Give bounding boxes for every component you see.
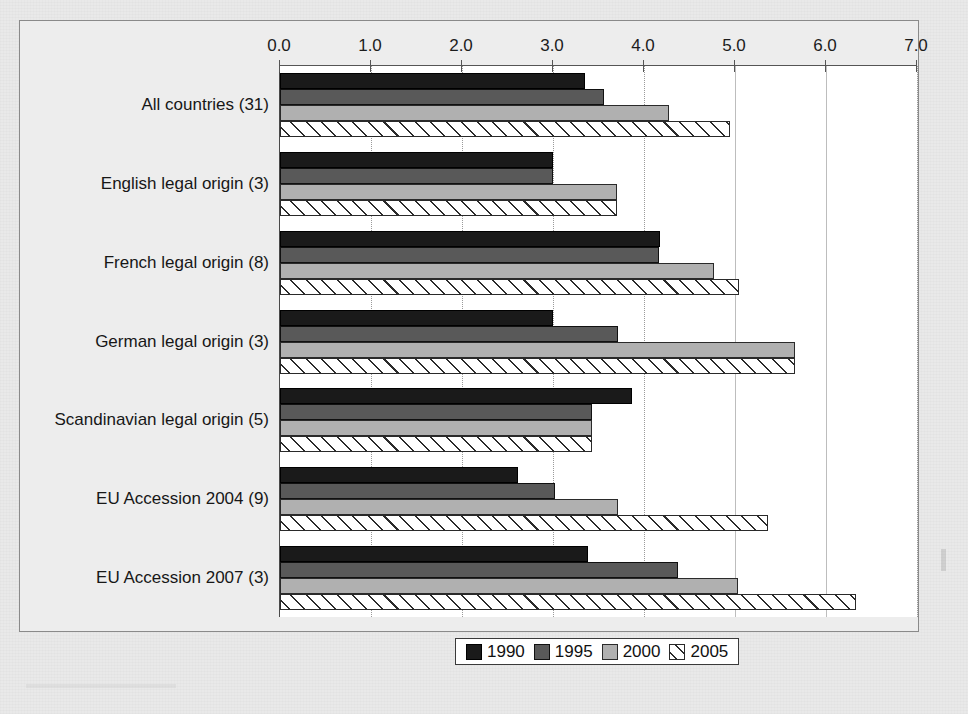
axis-tick-label: 5.0 xyxy=(722,36,746,56)
bar-1995-4 xyxy=(280,326,618,342)
legend-item-2000[interactable]: 2000 xyxy=(602,642,661,662)
bar-2005-1 xyxy=(280,121,730,137)
bar-1990-6 xyxy=(280,467,518,483)
bar-1995-1 xyxy=(280,89,604,105)
figure-container: All countries (31)English legal origin (… xyxy=(0,0,968,714)
axis-tick xyxy=(552,60,553,72)
bar-2000-6 xyxy=(280,499,618,515)
axis-tick-label: 0.0 xyxy=(267,36,291,56)
legend-item-1995[interactable]: 1995 xyxy=(534,642,593,662)
bar-1990-3 xyxy=(280,231,660,247)
axis-tick xyxy=(734,60,735,72)
axis-tick-label: 2.0 xyxy=(449,36,473,56)
axis-tick xyxy=(279,60,280,72)
axis-tick xyxy=(916,60,917,72)
bar-1995-3 xyxy=(280,247,659,263)
category-axis-labels: All countries (31)English legal origin (… xyxy=(20,66,279,617)
category-label: German legal origin (3) xyxy=(95,332,279,352)
axis-tick xyxy=(461,60,462,72)
category-label: French legal origin (8) xyxy=(104,253,279,273)
bar-2000-1 xyxy=(280,105,669,121)
legend-label: 2005 xyxy=(690,642,728,662)
legend-label: 2000 xyxy=(623,642,661,662)
legend-swatch-icon-1995 xyxy=(534,644,550,660)
bar-1990-2 xyxy=(280,152,553,168)
gridline xyxy=(917,66,919,617)
legend-swatch-icon-1990 xyxy=(466,644,482,660)
plot-area xyxy=(279,66,917,617)
bar-2000-2 xyxy=(280,184,617,200)
category-label: All countries (31) xyxy=(141,95,279,115)
bar-1995-5 xyxy=(280,404,592,420)
bar-2000-3 xyxy=(280,263,714,279)
bar-1990-4 xyxy=(280,310,553,326)
category-label: Scandinavian legal origin (5) xyxy=(54,410,279,430)
chart-legend: 1990199520002005 xyxy=(455,638,739,665)
bar-1995-2 xyxy=(280,168,553,184)
bar-2000-7 xyxy=(280,578,738,594)
axis-tick-label: 3.0 xyxy=(540,36,564,56)
bar-2005-7 xyxy=(280,594,856,610)
bar-1995-7 xyxy=(280,562,678,578)
category-label: EU Accession 2004 (9) xyxy=(96,489,279,509)
legend-item-1990[interactable]: 1990 xyxy=(466,642,525,662)
gridline xyxy=(826,66,828,617)
bar-2005-5 xyxy=(280,436,592,452)
legend-label: 1995 xyxy=(555,642,593,662)
bar-2005-3 xyxy=(280,279,739,295)
bar-1990-7 xyxy=(280,546,588,562)
axis-tick-label: 7.0 xyxy=(904,36,928,56)
category-label: EU Accession 2007 (3) xyxy=(96,568,279,588)
bar-1990-1 xyxy=(280,73,585,89)
bar-1995-6 xyxy=(280,483,555,499)
category-label: English legal origin (3) xyxy=(101,174,279,194)
axis-tick-label: 6.0 xyxy=(813,36,837,56)
axis-tick xyxy=(370,60,371,72)
axis-tick xyxy=(825,60,826,72)
value-axis: 0.01.02.03.04.05.06.07.0 xyxy=(279,65,916,66)
legend-label: 1990 xyxy=(487,642,525,662)
bar-2000-5 xyxy=(280,420,592,436)
bar-2005-6 xyxy=(280,515,768,531)
bar-2005-2 xyxy=(280,200,617,216)
axis-tick-label: 4.0 xyxy=(631,36,655,56)
bar-2000-4 xyxy=(280,342,795,358)
bar-1990-5 xyxy=(280,388,632,404)
legend-swatch-icon-2005 xyxy=(669,644,685,660)
bar-2005-4 xyxy=(280,358,795,374)
axis-tick xyxy=(643,60,644,72)
legend-item-2005[interactable]: 2005 xyxy=(669,642,728,662)
axis-tick-label: 1.0 xyxy=(358,36,382,56)
legend-swatch-icon-2000 xyxy=(602,644,618,660)
